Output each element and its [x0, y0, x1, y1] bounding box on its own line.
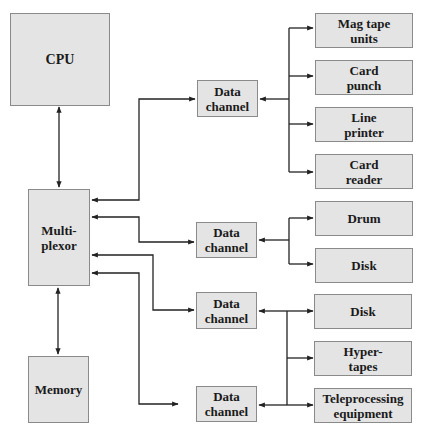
multiplexor-box: Multi- plexor: [28, 189, 90, 286]
teleprocessing-equipment-label: Teleprocessing equipment: [323, 391, 404, 421]
mux-dc1-link: [92, 99, 195, 200]
disk-1-box: Disk: [315, 248, 413, 283]
cpu-label: CPU: [46, 52, 75, 67]
cpu-box: CPU: [10, 13, 110, 106]
memory-box: Memory: [28, 356, 89, 423]
multiplexor-label: Multi- plexor: [41, 223, 76, 253]
disk-1-label: Disk: [351, 258, 376, 273]
teleprocessing-equipment-box: Teleprocessing equipment: [314, 388, 412, 423]
mux-dc2-link: [92, 217, 194, 242]
memory-label: Memory: [35, 382, 83, 397]
line-printer-box: Line printer: [315, 107, 413, 142]
data-channel-2-label: Data channel: [205, 225, 248, 255]
mag-tape-units-label: Mag tape units: [338, 16, 390, 46]
data-channel-3-box: Data channel: [196, 292, 257, 329]
data-channel-4-box: Data channel: [196, 386, 257, 422]
drum-box: Drum: [315, 201, 413, 236]
data-channel-4-label: Data channel: [205, 389, 248, 419]
hyper-tapes-label: Hyper- tapes: [343, 344, 382, 374]
card-reader-box: Card reader: [315, 154, 413, 189]
disk-2-label: Disk: [350, 304, 375, 319]
mux-dc3-link: [92, 255, 194, 310]
drum-label: Drum: [347, 211, 380, 226]
data-channel-1-label: Data channel: [206, 84, 249, 114]
mux-dc4-link: [92, 273, 178, 404]
mag-tape-units-box: Mag tape units: [315, 13, 413, 48]
hyper-tapes-box: Hyper- tapes: [314, 341, 412, 376]
data-channel-2-box: Data channel: [196, 222, 257, 258]
line-printer-label: Line printer: [344, 110, 384, 140]
card-reader-label: Card reader: [346, 157, 383, 187]
card-punch-label: Card punch: [347, 63, 382, 93]
data-channel-3-label: Data channel: [205, 296, 248, 326]
card-punch-box: Card punch: [315, 60, 413, 95]
data-channel-1-box: Data channel: [197, 80, 258, 117]
disk-2-box: Disk: [314, 294, 412, 329]
